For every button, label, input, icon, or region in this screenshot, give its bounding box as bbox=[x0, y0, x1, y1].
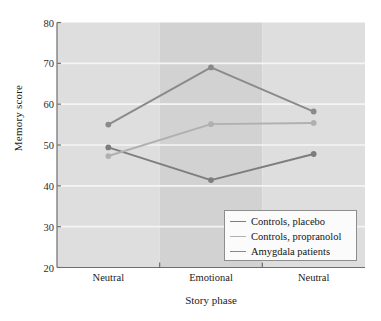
data-point bbox=[105, 145, 111, 151]
chart-figure: Memory score Story phase 80706050403020 … bbox=[0, 0, 381, 321]
x-axis-title: Story phase bbox=[57, 294, 365, 306]
data-point bbox=[105, 122, 111, 128]
y-tick-label: 20 bbox=[34, 262, 54, 273]
legend-item-label: Controls, propranolol bbox=[251, 231, 341, 242]
y-tick-label: 70 bbox=[34, 58, 54, 69]
y-tick-label: 60 bbox=[34, 99, 54, 110]
legend-item-label: Amygdala patients bbox=[251, 246, 330, 257]
x-tick-label: Emotional bbox=[189, 272, 233, 283]
data-point bbox=[208, 121, 214, 127]
data-point bbox=[311, 151, 317, 157]
x-tick-label: Neutral bbox=[93, 272, 125, 283]
legend-item: Controls, propranolol bbox=[230, 229, 352, 244]
y-axis-title: Memory score bbox=[12, 68, 24, 168]
data-point bbox=[105, 153, 111, 159]
y-tick-label: 40 bbox=[34, 180, 54, 191]
legend-line-icon bbox=[230, 221, 246, 222]
chart-legend: Controls, placebo Controls, propranolol … bbox=[224, 210, 357, 261]
y-axis-ticks: 80706050403020 bbox=[32, 0, 54, 321]
x-tick-label: Neutral bbox=[298, 272, 330, 283]
y-tick-label: 50 bbox=[34, 140, 54, 151]
y-tick-label: 80 bbox=[34, 17, 54, 28]
legend-line-icon bbox=[230, 236, 246, 237]
data-point bbox=[208, 177, 214, 183]
legend-item: Controls, placebo bbox=[230, 214, 352, 229]
y-tick-label: 30 bbox=[34, 221, 54, 232]
legend-line-icon bbox=[230, 251, 246, 252]
data-point bbox=[311, 120, 317, 126]
legend-item-label: Controls, placebo bbox=[251, 216, 325, 227]
data-point bbox=[311, 109, 317, 115]
data-point bbox=[208, 65, 214, 71]
legend-item: Amygdala patients bbox=[230, 244, 352, 259]
